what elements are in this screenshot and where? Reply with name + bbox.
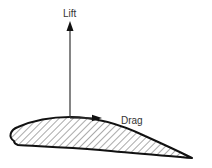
diagram-svg — [0, 0, 212, 168]
lift-label: Lift — [63, 9, 76, 19]
airfoil-diagram: Lift Drag — [0, 0, 212, 168]
airfoil-shape — [11, 117, 192, 158]
lift-arrow — [67, 21, 74, 118]
drag-label: Drag — [121, 116, 143, 126]
